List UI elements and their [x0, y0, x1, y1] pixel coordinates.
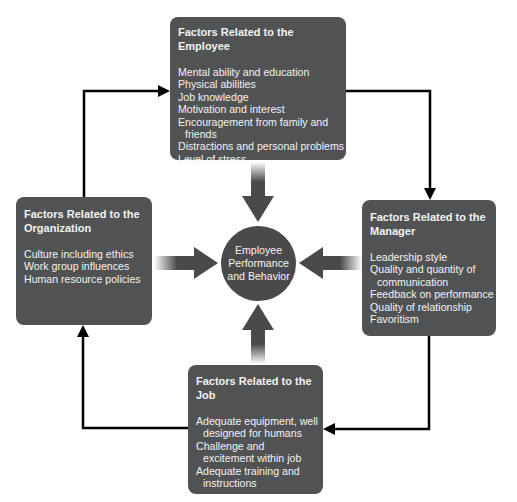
factor-item: Encouragement from family andfriends	[178, 116, 338, 141]
factor-item: Leadership style	[370, 251, 488, 263]
employee-performance-circle: Employee Performance and Behavior	[221, 226, 296, 301]
factor-item-text: Leadership style	[370, 251, 447, 263]
factor-item: Quality of relationship	[370, 301, 488, 313]
factor-item: Favoritism	[370, 313, 488, 325]
factor-item-text: Work group influences	[24, 260, 129, 272]
manager-factors-list: Leadership styleQuality and quantity ofc…	[370, 251, 488, 325]
block-arrow-from-job	[242, 304, 274, 364]
factor-item-continuation: communication	[370, 276, 488, 288]
factor-item-text: Favoritism	[370, 313, 419, 325]
factor-item: Motivation and interest	[178, 103, 338, 115]
factor-item-text: Quality and quantity of	[370, 263, 475, 275]
employee-factors-list: Mental ability and educationPhysical abi…	[178, 66, 338, 165]
arrowhead-icon	[424, 188, 436, 200]
manager-factors-title: Factors Related to the Manager	[370, 210, 488, 238]
factor-item-text: Challenge and	[196, 440, 264, 452]
job-factors-list: Adequate equipment, welldesigned for hum…	[196, 415, 315, 489]
block-arrow-from-organization	[154, 247, 218, 279]
arrowhead-icon	[158, 85, 170, 97]
factor-item-text: Motivation and interest	[178, 103, 285, 115]
factor-item: Physical abilities	[178, 78, 338, 90]
factor-item: Distractions and personal problems	[178, 140, 338, 152]
factor-item: Feedback on performance	[370, 288, 488, 300]
block-arrow-from-employee	[242, 162, 274, 222]
connector-manager-to-job	[323, 336, 429, 435]
factor-item-continuation: designed for humans	[196, 427, 315, 439]
factor-item-text: Human resource policies	[24, 273, 141, 285]
factor-item-continuation: excitement within job	[196, 452, 315, 464]
block-arrow-from-manager	[299, 247, 362, 279]
factor-item: Culture including ethics	[24, 248, 144, 260]
job-factors-title: Factors Related to the Job	[196, 374, 315, 402]
factor-item-text: Feedback on performance	[370, 288, 494, 300]
factor-item-continuation: friends	[178, 128, 338, 140]
factor-item-text: Distractions and personal problems	[178, 140, 344, 152]
arrowhead-icon	[77, 325, 89, 337]
employee-factors-box: Factors Related to the Employee Mental a…	[170, 17, 346, 160]
factor-item-text: Physical abilities	[178, 78, 256, 90]
factor-item: Work group influences	[24, 260, 144, 272]
factor-item: Adequate training andinstructions	[196, 465, 315, 490]
center-line: and Behavior	[227, 270, 289, 282]
factor-item-continuation: instructions	[196, 477, 315, 489]
factor-item: Job knowledge	[178, 91, 338, 103]
factor-item-text: Job knowledge	[178, 91, 249, 103]
job-factors-box: Factors Related to the Job Adequate equi…	[188, 365, 323, 494]
factor-item-text: Level of stress	[178, 153, 246, 165]
factor-item-text: Encouragement from family and	[178, 116, 328, 128]
factor-item-text: Mental ability and education	[178, 66, 309, 78]
organization-factors-list: Culture including ethicsWork group influ…	[24, 248, 144, 285]
connector-employee-to-manager	[346, 91, 436, 200]
connector-job-to-org	[77, 325, 188, 428]
factor-item-text: Adequate equipment, well	[196, 415, 318, 427]
factor-item: Mental ability and education	[178, 66, 338, 78]
connector-org-to-employee	[84, 85, 170, 197]
center-line: Performance	[228, 257, 289, 269]
factor-item: Human resource policies	[24, 273, 144, 285]
factor-item: Adequate equipment, welldesigned for hum…	[196, 415, 315, 440]
center-line: Employee	[235, 244, 282, 256]
factor-item-text: Quality of relationship	[370, 301, 472, 313]
factor-item: Quality and quantity ofcommunication	[370, 263, 488, 288]
factor-item: Level of stress	[178, 153, 338, 165]
employee-factors-title: Factors Related to the Employee	[178, 25, 338, 53]
factor-item-text: Adequate training and	[196, 465, 300, 477]
organization-factors-box: Factors Related to the Organization Cult…	[16, 197, 152, 325]
arrowhead-icon	[323, 423, 335, 435]
factor-item-text: Culture including ethics	[24, 248, 134, 260]
manager-factors-box: Factors Related to the Manager Leadershi…	[362, 200, 496, 336]
organization-factors-title: Factors Related to the Organization	[24, 207, 144, 235]
factor-item: Challenge andexcitement within job	[196, 440, 315, 465]
